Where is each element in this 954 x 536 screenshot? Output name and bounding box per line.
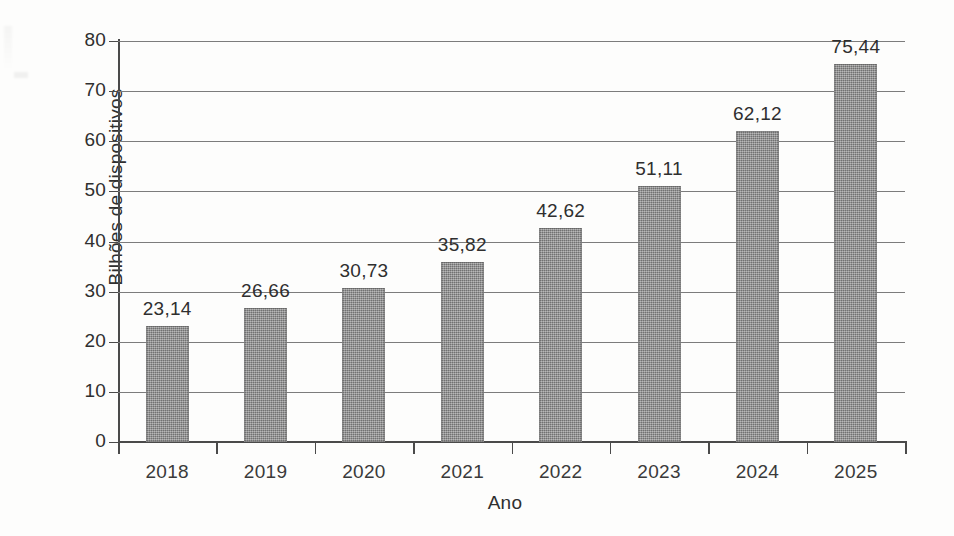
y-axis-tick-label: 70 (46, 79, 106, 101)
bar (834, 64, 877, 442)
x-axis-tick (315, 443, 317, 454)
bar-value-label: 35,82 (392, 234, 532, 256)
y-axis-tick (109, 141, 118, 142)
x-axis-tick-label: 2025 (796, 461, 916, 483)
y-axis-tick (109, 342, 118, 343)
x-axis-tick (413, 443, 415, 454)
bar (736, 131, 779, 442)
gridline (118, 91, 905, 92)
bar (638, 186, 681, 442)
x-axis-tick (512, 443, 514, 454)
gridline (118, 141, 905, 142)
bar (342, 288, 385, 442)
x-axis-tick (610, 443, 612, 454)
bar-chart-figure: Bilhões de dispositivos 0102030405060708… (0, 0, 954, 536)
x-axis-tick (216, 443, 218, 454)
y-axis-tick-label: 10 (46, 380, 106, 402)
y-axis-tick-label: 20 (46, 330, 106, 352)
y-axis-tick-label: 80 (46, 29, 106, 51)
y-axis-tick-label: 40 (46, 230, 106, 252)
gridline (118, 342, 905, 343)
bar (244, 308, 287, 442)
plot-area: 23,1426,6630,7335,8242,6251,1162,1275,44 (118, 41, 905, 442)
bar-value-label: 62,12 (687, 103, 827, 125)
bar-value-label: 26,66 (196, 280, 336, 302)
y-axis-tick (109, 442, 118, 443)
x-axis-tick (905, 443, 907, 454)
x-axis-tick (118, 443, 120, 454)
y-axis-tick-label: 60 (46, 129, 106, 151)
x-axis-tick (708, 443, 710, 454)
bar-value-label: 42,62 (491, 200, 631, 222)
x-axis-title-text: Ano (488, 492, 523, 514)
bar-value-label: 75,44 (786, 36, 926, 58)
scan-artifact (4, 26, 12, 70)
bar (441, 262, 484, 442)
bar (539, 228, 582, 442)
bar-value-label: 30,73 (294, 260, 434, 282)
scan-artifact-secondary (14, 72, 28, 78)
y-axis-tick (109, 392, 118, 393)
x-axis-title: Ano (0, 492, 954, 514)
bar (146, 326, 189, 442)
y-axis-tick (109, 242, 118, 243)
y-axis-tick-label: 0 (46, 430, 106, 452)
y-axis-tick (109, 41, 118, 42)
gridline (118, 392, 905, 393)
bar-value-label: 51,11 (589, 158, 729, 180)
x-axis-tick (807, 443, 809, 454)
y-axis-tick (109, 292, 118, 293)
y-axis-tick (109, 191, 118, 192)
y-axis-tick-label: 50 (46, 179, 106, 201)
gridline (118, 191, 905, 192)
y-axis-tick (109, 91, 118, 92)
